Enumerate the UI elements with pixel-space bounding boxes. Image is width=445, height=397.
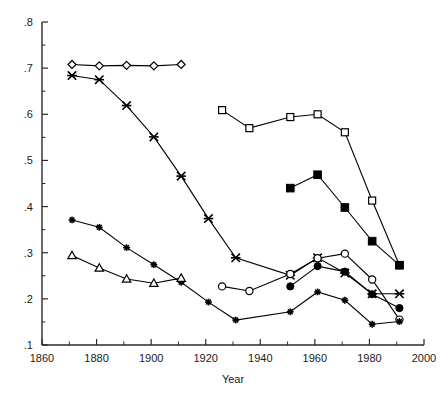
- x-axis-tick-labels: 18601880190019201940196019802000: [30, 352, 436, 364]
- marker-open-square: [314, 111, 321, 118]
- x-tick-label: 1900: [139, 352, 163, 364]
- chart-canvas: .1.2.3.4.5.6.7.8 18601880190019201940196…: [0, 0, 445, 397]
- marker-filled-circle: [396, 304, 403, 311]
- marker-filled-circle: [287, 283, 294, 290]
- marker-filled-x: [67, 71, 77, 79]
- series-open-triangle: [68, 251, 186, 286]
- marker-filled-plus: [150, 261, 157, 268]
- marker-filled-x: [95, 75, 105, 83]
- x-tick-label: 1880: [84, 352, 108, 364]
- marker-open-circle: [341, 250, 348, 257]
- marker-open-triangle: [95, 264, 103, 271]
- x-tick-label: 1920: [193, 352, 217, 364]
- marker-filled-plus: [396, 318, 403, 325]
- marker-open-triangle: [177, 274, 185, 281]
- marker-filled-x: [176, 172, 186, 180]
- marker-filled-square: [287, 184, 295, 192]
- marker-filled-plus: [96, 224, 103, 231]
- series-layer: [67, 60, 404, 327]
- marker-open-triangle: [68, 251, 76, 258]
- y-tick-label: .3: [24, 247, 33, 259]
- x-tick-label: 2000: [412, 352, 436, 364]
- marker-open-square: [246, 125, 253, 132]
- x-tick-label: 1860: [30, 352, 54, 364]
- marker-open-circle: [369, 276, 376, 283]
- marker-open-diamond: [95, 62, 103, 70]
- marker-filled-plus: [287, 308, 294, 315]
- marker-filled-square: [368, 237, 376, 245]
- marker-filled-plus: [69, 217, 76, 224]
- marker-filled-circle: [341, 268, 348, 275]
- series-open-diamond: [68, 60, 185, 69]
- marker-filled-plus: [314, 289, 321, 296]
- series-filled-circle: [287, 262, 403, 311]
- line-chart: .1.2.3.4.5.6.7.8 18601880190019201940196…: [0, 0, 445, 397]
- marker-open-square: [287, 114, 294, 121]
- marker-filled-plus: [369, 321, 376, 328]
- x-axis-title: Year: [222, 373, 245, 385]
- marker-open-square: [369, 197, 376, 204]
- marker-filled-x: [122, 101, 132, 109]
- marker-open-circle: [314, 255, 321, 262]
- marker-filled-x: [231, 254, 241, 262]
- marker-filled-x: [149, 133, 159, 141]
- marker-filled-circle: [369, 291, 376, 298]
- marker-filled-x: [204, 214, 214, 222]
- series-polyline: [72, 76, 399, 294]
- marker-open-diamond: [68, 60, 76, 68]
- marker-filled-plus: [232, 317, 239, 324]
- marker-open-circle: [287, 270, 294, 277]
- marker-open-circle: [246, 287, 253, 294]
- marker-open-square: [219, 107, 226, 114]
- series-polyline: [222, 254, 399, 320]
- marker-filled-plus: [205, 299, 212, 306]
- series-plus: [69, 217, 403, 328]
- y-tick-label: .2: [24, 293, 33, 305]
- marker-open-diamond: [177, 60, 185, 68]
- y-tick-label: .8: [24, 16, 33, 28]
- marker-open-square: [341, 129, 348, 136]
- marker-filled-plus: [341, 297, 348, 304]
- x-axis-ticks: [42, 339, 424, 345]
- y-tick-label: .6: [24, 108, 33, 120]
- marker-filled-plus: [123, 244, 130, 251]
- marker-filled-square: [396, 261, 404, 269]
- series-cross-x: [67, 71, 404, 298]
- x-tick-label: 1940: [248, 352, 272, 364]
- marker-filled-square: [314, 171, 322, 179]
- series-polyline: [72, 220, 399, 324]
- y-tick-label: .5: [24, 154, 33, 166]
- marker-filled-x: [395, 290, 405, 298]
- marker-open-diamond: [150, 62, 158, 70]
- marker-open-triangle: [122, 275, 130, 282]
- y-axis-ticks: [42, 22, 48, 345]
- marker-open-diamond: [123, 61, 131, 69]
- marker-open-circle: [218, 283, 225, 290]
- x-tick-label: 1980: [357, 352, 381, 364]
- marker-filled-circle: [314, 262, 321, 269]
- marker-filled-square: [341, 204, 349, 212]
- y-axis-tick-labels: .1.2.3.4.5.6.7.8: [24, 16, 33, 351]
- y-tick-label: .4: [24, 201, 33, 213]
- y-tick-label: .7: [24, 62, 33, 74]
- x-tick-label: 1960: [303, 352, 327, 364]
- y-tick-label: .1: [24, 339, 33, 351]
